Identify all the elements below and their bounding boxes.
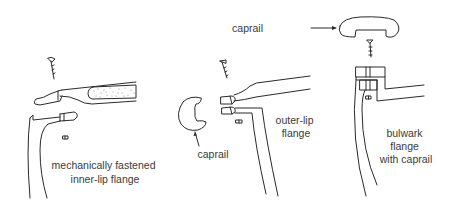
hull-deck-joint-diagram: mechanically fastened inner-lip flange c… [0,0,460,206]
screw-icon [367,40,373,57]
bulwark-flange [356,67,424,101]
label-bulwark: bulwark flange with caprail [379,127,433,165]
caprail-section [339,17,399,37]
screw-icon [220,60,228,78]
deck-section [221,76,310,104]
panel-inner-lip: mechanically fastened inner-lip flange [28,57,158,198]
deck-section [34,82,136,105]
hull-section [222,107,278,196]
screw-icon [48,57,55,79]
caprail-section [178,97,206,130]
label-caprail-top: caprail [232,22,263,34]
panel-bulwark: caprail [232,17,432,196]
panel-outer-lip: caprail outer-lip flange [178,60,316,196]
caprail-callout-arrow [311,26,337,30]
label-outer-lip: outer-lip flange [276,114,317,139]
hull-section [28,112,77,198]
caprail-callout-arrow [194,132,200,146]
label-inner-lip: mechanically fastened inner-lip flange [52,159,159,185]
label-caprail-middle: caprail [198,148,229,160]
